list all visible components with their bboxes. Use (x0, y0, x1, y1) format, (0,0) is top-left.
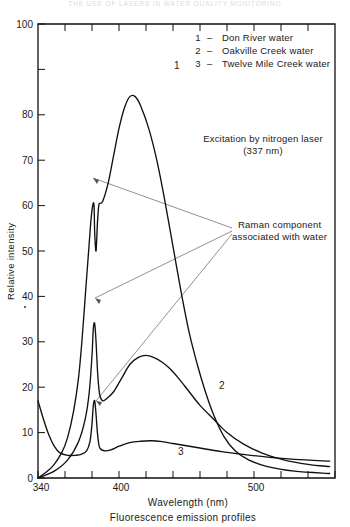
legend-item-1: 1 – Don River water (195, 32, 293, 43)
y-tick-label-20: 20 (22, 382, 34, 393)
x-tick-label-400: 400 (113, 482, 130, 493)
curves-layer (38, 95, 330, 478)
y-axis-title: Relative intensity (5, 223, 16, 300)
legend: 1 – Don River water 2 – Oakville Creek w… (195, 32, 330, 69)
curve-label-3: 3 (178, 446, 184, 457)
raman-arrowhead-curve2 (95, 298, 101, 304)
raman-leader-line-curve3 (96, 234, 232, 401)
excitation-annotation: Excitation by nitrogen laser (337 nm) (203, 133, 323, 156)
legend-label-2: Oakville Creek water (222, 45, 314, 56)
legend-key-3: 3 (195, 58, 200, 69)
fluorescence-emission-chart: 0 10 20 30 40 50 60 70 80 100 Relative i… (0, 0, 350, 527)
y-tick-label-70: 70 (22, 155, 34, 166)
curve-label-1: 1 (174, 60, 180, 71)
raman-annotation-line2: associated with water (232, 231, 327, 242)
excitation-annotation-line1: Excitation by nitrogen laser (203, 133, 323, 144)
legend-key-1: 1 (195, 32, 200, 43)
y-axis-ticks (38, 24, 45, 478)
y-tick-label-40: 40 (22, 291, 34, 302)
x-axis-ticks-top (65, 24, 308, 31)
raman-leader-line-curve2 (95, 231, 232, 298)
excitation-annotation-line2: (337 nm) (243, 145, 283, 156)
legend-item-3: 3 – Twelve Mile Creek water (195, 58, 330, 69)
legend-label-3: Twelve Mile Creek water (222, 58, 330, 69)
y-tick-label-50: 50 (22, 246, 34, 257)
legend-dash-1: – (207, 32, 213, 43)
y-tick-label-100: 100 (16, 19, 33, 30)
y-tick-label-80: 80 (22, 109, 34, 120)
plot-frame (38, 24, 335, 478)
y-tick-label-60: 60 (22, 200, 34, 211)
scan-speck (24, 306, 26, 308)
y-tick-label-10: 10 (22, 427, 34, 438)
raman-arrowhead-curve3 (96, 401, 102, 406)
x-tick-label-500: 500 (248, 482, 265, 493)
legend-dash-3: – (207, 58, 213, 69)
legend-label-1: Don River water (222, 32, 293, 43)
legend-key-2: 2 (195, 45, 200, 56)
y-axis: 0 10 20 30 40 50 60 70 80 100 Relative i… (5, 19, 45, 484)
x-axis-title: Wavelength (nm) (148, 497, 228, 508)
x-axis-ticks-bottom (38, 471, 335, 478)
legend-dash-2: – (207, 45, 213, 56)
figure-container: THE USE OF LASERS IN WATER QUALITY MONIT… (0, 0, 350, 527)
x-tick-label-340: 340 (33, 482, 50, 493)
scan-bleed-text: THE USE OF LASERS IN WATER QUALITY MONIT… (38, 0, 312, 7)
curve-don-river-water (38, 95, 330, 478)
y-tick-label-30: 30 (22, 336, 34, 347)
figure-caption: Fluorescence emission profiles (110, 512, 256, 523)
curve-label-2: 2 (219, 380, 225, 391)
curve-labels: 1 2 3 (174, 60, 225, 457)
x-axis: 340 400 500 Wavelength (nm) (33, 24, 335, 508)
raman-annotation-line1: Raman component (238, 219, 321, 230)
legend-item-2: 2 – Oakville Creek water (195, 45, 313, 56)
raman-annotation: Raman component associated with water (93, 178, 327, 406)
